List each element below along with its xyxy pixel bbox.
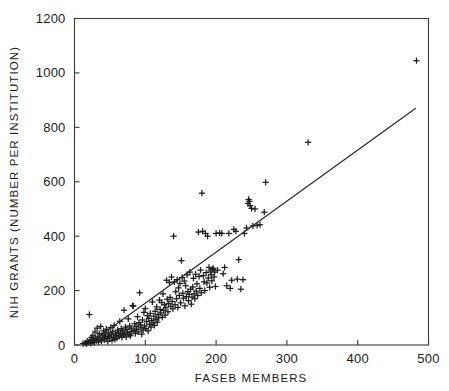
scatter-plot-figure: 020040060080010001200 0100200300400500 F…	[0, 0, 449, 391]
data-point-marker	[220, 271, 226, 277]
y-tick-label: 200	[43, 283, 65, 298]
y-tick-label: 1200	[36, 11, 66, 26]
y-tick-label: 600	[43, 174, 65, 189]
x-tick-label: 100	[134, 351, 156, 366]
data-point-marker	[226, 230, 232, 236]
data-point-marker	[212, 283, 218, 289]
data-point-marker	[252, 206, 258, 212]
data-point-marker	[413, 58, 419, 64]
data-point-marker	[171, 233, 177, 239]
data-point-marker	[195, 229, 201, 235]
data-point-marker	[137, 290, 143, 296]
x-tick-label: 0	[71, 351, 78, 366]
data-point-marker	[199, 190, 205, 196]
data-point-marker	[236, 256, 242, 262]
data-point-marker	[178, 258, 184, 264]
chart-canvas: 020040060080010001200 0100200300400500 F…	[0, 0, 449, 391]
data-point-marker	[173, 289, 179, 295]
data-point-marker	[207, 284, 213, 290]
data-point-marker	[229, 277, 235, 283]
data-point-marker	[142, 305, 148, 311]
data-point-marker	[234, 276, 240, 282]
data-point-marker	[134, 314, 140, 320]
x-tick-label: 400	[347, 351, 369, 366]
data-point-marker	[175, 285, 181, 291]
data-point-marker	[261, 209, 267, 215]
data-point-marker	[197, 267, 203, 273]
data-point-marker	[305, 139, 311, 145]
data-point-marker	[154, 319, 160, 325]
data-point-marker	[168, 274, 174, 280]
data-point-marker	[238, 286, 244, 292]
data-point-marker	[188, 301, 194, 307]
data-point-marker	[263, 179, 269, 185]
y-tick-label: 800	[43, 120, 65, 135]
data-point-marker	[194, 281, 200, 287]
plot-frame-box	[75, 19, 429, 346]
data-point-marker	[86, 311, 92, 317]
data-point-marker	[183, 283, 189, 289]
scatter-markers	[80, 58, 420, 347]
y-tick-label: 0	[58, 338, 65, 353]
data-point-marker	[240, 277, 246, 283]
y-tick-label: 1000	[36, 65, 66, 80]
x-axis-tick-marks	[75, 340, 429, 345]
x-axis-title: FASEB MEMBERS	[195, 372, 308, 384]
data-point-marker	[121, 307, 127, 313]
data-point-marker	[182, 303, 188, 309]
data-point-marker	[221, 264, 227, 270]
x-tick-label: 500	[417, 351, 439, 366]
x-tick-label: 200	[205, 351, 227, 366]
x-axis-tick-labels: 0100200300400500	[71, 351, 440, 366]
data-point-marker	[178, 300, 184, 306]
regression-line	[87, 108, 416, 345]
y-axis-tick-marks	[75, 19, 80, 346]
data-point-marker	[130, 303, 136, 309]
data-point-marker	[201, 279, 207, 285]
y-axis-tick-labels: 020040060080010001200	[36, 11, 66, 353]
data-point-marker	[141, 309, 147, 315]
x-tick-label: 300	[276, 351, 298, 366]
y-axis-title: NIH GRANTS (NUMBER PER INSTITUTION)	[8, 46, 20, 318]
y-tick-label: 400	[43, 229, 65, 244]
